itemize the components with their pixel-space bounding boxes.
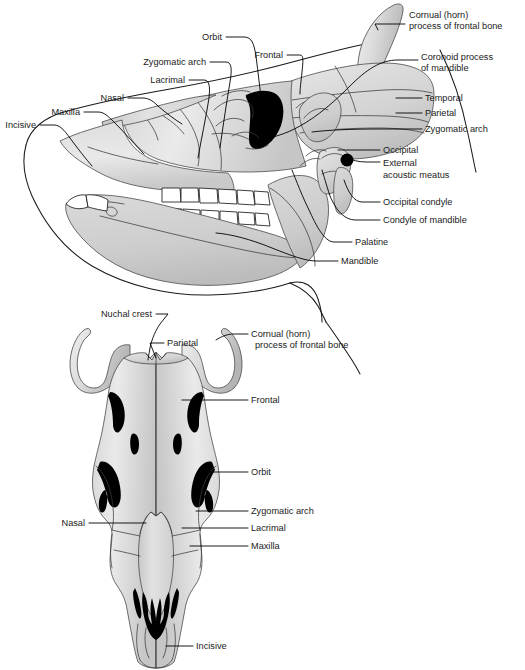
label-lacrimal: Lacrimal bbox=[150, 75, 185, 85]
label-cornual-process-dorsal-line1: Cornual (horn) bbox=[251, 329, 310, 339]
label-maxilla-dorsal: Maxilla bbox=[251, 541, 280, 551]
anatomical-figure: Cornual (horn) process of frontal bone C… bbox=[0, 0, 525, 670]
label-orbit: Orbit bbox=[202, 32, 222, 42]
label-incisive: Incisive bbox=[5, 120, 36, 130]
label-temporal: Temporal bbox=[425, 93, 463, 103]
label-coronoid-process-line1: Coronoid process bbox=[421, 52, 493, 62]
label-zygomatic-arch-right: Zygomatic arch bbox=[425, 124, 488, 134]
label-zygomatic-arch-left: Zygomatic arch bbox=[143, 57, 206, 67]
label-nuchal-crest: Nuchal crest bbox=[101, 309, 153, 319]
label-incisive-dorsal: Incisive bbox=[196, 641, 227, 651]
profile-continuation-line bbox=[290, 283, 326, 322]
label-orbit-dorsal: Orbit bbox=[251, 467, 271, 477]
label-palatine: Palatine bbox=[355, 237, 388, 247]
label-cornual-process-line1: Cornual (horn) bbox=[409, 10, 468, 20]
incisor-tooth-1 bbox=[66, 195, 88, 209]
skull-diagram-svg: Cornual (horn) process of frontal bone C… bbox=[0, 0, 525, 670]
label-mandible: Mandible bbox=[341, 256, 378, 266]
label-parietal: Parietal bbox=[425, 108, 456, 118]
label-lacrimal-dorsal: Lacrimal bbox=[251, 523, 286, 533]
label-zygomatic-arch-dorsal: Zygomatic arch bbox=[251, 506, 314, 516]
label-occipital-condyle: Occipital condyle bbox=[383, 197, 452, 207]
label-coronoid-process-line2: of mandible bbox=[421, 63, 469, 73]
label-external-acoustic-meatus-line2: acoustic meatus bbox=[383, 170, 450, 180]
label-occipital: Occipital bbox=[383, 145, 418, 155]
label-frontal: Frontal bbox=[254, 50, 283, 60]
label-condyle-of-mandible: Condyle of mandible bbox=[383, 215, 467, 225]
label-nasal-dorsal: Nasal bbox=[62, 518, 86, 528]
label-cornual-process-dorsal-line2: process of frontal bone bbox=[255, 340, 348, 350]
label-external-acoustic-meatus-line1: External bbox=[383, 158, 417, 168]
label-maxilla: Maxilla bbox=[51, 107, 80, 117]
upper-teeth-row bbox=[162, 188, 270, 205]
label-nasal: Nasal bbox=[101, 93, 125, 103]
label-frontal-dorsal: Frontal bbox=[251, 395, 280, 405]
label-cornual-process-line2: process of frontal bone bbox=[409, 21, 502, 31]
label-parietal-dorsal: Parietal bbox=[167, 338, 198, 348]
occipital-condyle-shape bbox=[334, 167, 353, 214]
